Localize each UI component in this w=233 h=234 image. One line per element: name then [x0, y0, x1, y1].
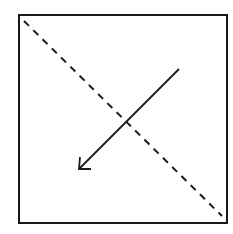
- arrow: [79, 69, 179, 169]
- arrow-shaft: [79, 69, 179, 169]
- dashed-diagonal-line: [24, 21, 222, 216]
- square-frame: [19, 15, 227, 223]
- diagram-canvas: [0, 0, 233, 234]
